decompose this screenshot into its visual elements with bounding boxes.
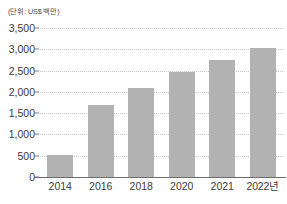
bar-slot	[162, 28, 203, 177]
bar[interactable]	[128, 88, 154, 177]
y-tick-mark	[35, 70, 39, 71]
x-axis-tick-label: 2014	[40, 180, 81, 198]
bar[interactable]	[209, 60, 235, 177]
y-tick-mark	[35, 49, 39, 50]
y-tick-mark	[35, 155, 39, 156]
y-tick-mark	[35, 113, 39, 114]
y-axis-tick-label: 2,000	[9, 86, 35, 97]
x-axis-tick-label: 2020	[162, 180, 203, 198]
unit-caption: (단위: US$ 백만)	[8, 7, 60, 16]
bar-slot	[202, 28, 243, 177]
y-axis-tick-label: 500	[17, 150, 35, 161]
bar[interactable]	[47, 155, 73, 177]
x-axis-tick-label: 2016	[81, 180, 122, 198]
x-axis-line	[34, 177, 286, 178]
bar-chart: (단위: US$ 백만) 05001,0001,5002,0002,5003,0…	[0, 0, 287, 204]
bar[interactable]	[250, 48, 276, 177]
bar[interactable]	[88, 105, 114, 177]
x-axis-tick-label: 2021	[202, 180, 243, 198]
bar-slot	[81, 28, 122, 177]
plot-area: 05001,0001,5002,0002,5003,0003,500	[40, 28, 283, 177]
bars-group	[40, 28, 283, 177]
bar[interactable]	[169, 72, 195, 177]
x-axis-labels: 201420162018202020212022년	[40, 180, 283, 198]
x-axis-tick-label: 2018	[121, 180, 162, 198]
y-tick-mark	[35, 91, 39, 92]
y-tick-mark	[35, 134, 39, 135]
y-axis-tick-label: 1,500	[9, 108, 35, 119]
y-axis-tick-label: 3,500	[9, 23, 35, 34]
x-axis-tick-label: 2022년	[243, 180, 284, 198]
bar-slot	[243, 28, 284, 177]
bar-slot	[121, 28, 162, 177]
y-axis-tick-label: 1,000	[9, 129, 35, 140]
y-tick-mark	[35, 28, 39, 29]
y-axis-tick-label: 2,500	[9, 65, 35, 76]
y-axis-tick-label: 3,000	[9, 44, 35, 55]
bar-slot	[40, 28, 81, 177]
